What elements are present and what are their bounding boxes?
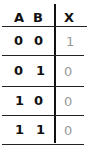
cell-a: 1 <box>15 122 24 137</box>
column-divider <box>54 4 56 143</box>
row-divider <box>2 144 84 145</box>
row-divider <box>2 115 84 116</box>
row-divider <box>2 55 84 56</box>
row-divider <box>2 86 84 87</box>
header-x: X <box>64 10 74 25</box>
cell-x: 0 <box>64 94 72 109</box>
cell-b: 0 <box>34 33 43 48</box>
cell-x: 0 <box>64 64 72 79</box>
cell-b: 0 <box>34 93 43 108</box>
cell-a: 0 <box>14 63 23 78</box>
cell-a: 0 <box>14 33 23 48</box>
cell-b: 1 <box>36 63 45 78</box>
cell-a: 1 <box>15 93 24 108</box>
cell-x: 1 <box>66 34 74 49</box>
header-b: B <box>33 10 43 25</box>
header-divider <box>2 26 87 27</box>
cell-b: 1 <box>36 122 45 137</box>
header-a: A <box>14 10 24 25</box>
cell-x: 0 <box>64 123 72 138</box>
